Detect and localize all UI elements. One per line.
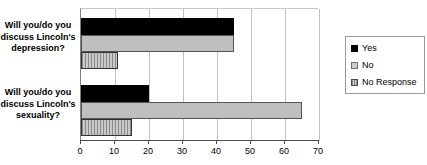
bar-group-0-no-response: [81, 52, 118, 69]
bar-group-1-no-response: [81, 119, 132, 136]
category-label-depression: Will you/do you discuss Lincoln's depres…: [0, 20, 76, 55]
bar-group-1-yes: [81, 85, 149, 102]
x-tick-40: [216, 141, 217, 144]
bar-group-0-yes: [81, 18, 234, 35]
legend: Yes No No Response: [345, 36, 425, 94]
x-tick-60: [284, 141, 285, 144]
x-tick-70: [318, 141, 319, 144]
gridline-70: [319, 9, 320, 141]
x-tick-label-50: 50: [238, 146, 262, 157]
bar-group-0-no: [81, 35, 234, 52]
x-tick-label-0: 0: [68, 146, 92, 157]
x-tick-20: [148, 141, 149, 144]
bar-group-1-no: [81, 102, 302, 119]
x-tick-10: [114, 141, 115, 144]
x-tick-label-70: 70: [306, 146, 330, 157]
gridline-60: [285, 9, 286, 141]
legend-label-yes: Yes: [362, 43, 377, 53]
legend-label-no-response: No Response: [362, 77, 417, 87]
bar-chart: Will you/do you discuss Lincoln's depres…: [0, 0, 427, 165]
x-tick-label-60: 60: [272, 146, 296, 157]
category-label-sexuality: Will you/do you discuss Lincoln's sexual…: [0, 87, 76, 122]
x-tick-30: [182, 141, 183, 144]
legend-item-no: No: [351, 59, 374, 71]
legend-item-yes: Yes: [351, 42, 377, 54]
legend-label-no: No: [362, 60, 374, 70]
x-tick-50: [250, 141, 251, 144]
legend-swatch-yes-icon: [351, 45, 358, 52]
plot-area: [80, 8, 318, 140]
x-tick-0: [80, 141, 81, 144]
x-tick-label-20: 20: [136, 146, 160, 157]
legend-swatch-no-icon: [351, 62, 358, 69]
x-tick-label-10: 10: [102, 146, 126, 157]
x-tick-label-40: 40: [204, 146, 228, 157]
gridline-50: [251, 9, 252, 141]
legend-swatch-no-response-icon: [351, 79, 358, 86]
legend-item-no-response: No Response: [351, 76, 417, 88]
x-tick-label-30: 30: [170, 146, 194, 157]
